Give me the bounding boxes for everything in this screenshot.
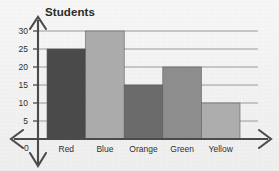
x-axis-label-orange: Orange — [124, 144, 163, 154]
bar-blue — [86, 31, 125, 139]
origin-label: 0 — [24, 143, 29, 153]
bar-green — [163, 67, 202, 139]
y-axis-tick-label: 25 — [12, 44, 28, 54]
bar-red — [47, 49, 86, 139]
x-axis-label-yellow: Yellow — [201, 144, 240, 154]
y-axis-tick-label: 15 — [12, 80, 28, 90]
y-axis-tick-label: 5 — [12, 116, 28, 126]
x-axis-label-green: Green — [163, 144, 202, 154]
bar-yellow — [201, 103, 240, 139]
x-axis-label-blue: Blue — [86, 144, 125, 154]
y-axis-tick-label: 20 — [12, 62, 28, 72]
y-axis-tick-label: 30 — [12, 26, 28, 36]
y-axis-tick-label: 10 — [12, 98, 28, 108]
x-axis-label-red: Red — [47, 144, 86, 154]
bar-orange — [124, 85, 163, 139]
bar-chart: Students 510152025300 RedBlueOrangeGreen… — [0, 0, 279, 171]
chart-screenshot: Students 510152025300 RedBlueOrangeGreen… — [0, 0, 279, 171]
